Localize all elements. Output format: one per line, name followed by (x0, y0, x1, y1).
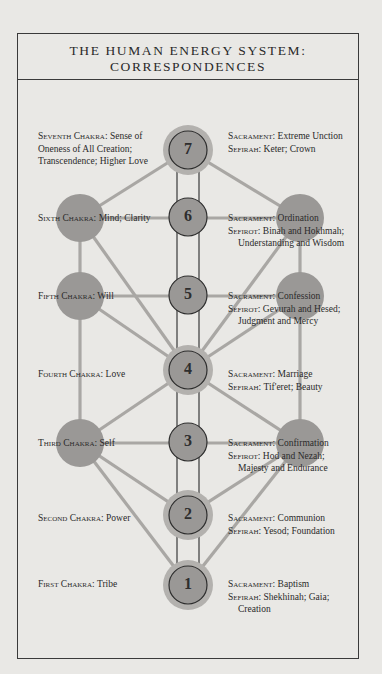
chakra-7-label: Seventh Chakra: Sense of Oneness of All … (38, 130, 148, 168)
chakra-name: Second Chakra: (38, 513, 104, 523)
sacrament-2-label: Sacrament: Communion Sefirah: Yesod; Fou… (228, 512, 335, 537)
chakra-6-label: Sixth Chakra: Mind; Clarity (38, 212, 151, 225)
chakra-4-label: Fourth Chakra: Love (38, 368, 125, 381)
chakra-3-label: Third Chakra: Self (38, 437, 115, 450)
chakra-name: Third Chakra: (38, 438, 97, 448)
sacrament-3-label: Sacrament: Confirmation Sefirot: Hod and… (228, 437, 329, 475)
tree-of-life-diagram (0, 0, 382, 674)
chakra-2-label: Second Chakra: Power (38, 512, 130, 525)
chakra-number-4: 4 (173, 360, 203, 378)
sacrament-6-label: Sacrament: Ordination Sefirot: Binah and… (228, 212, 344, 250)
sacrament-4-label: Sacrament: Marriage Sefirah: Tif'eret; B… (228, 368, 323, 393)
chakra-number-5: 5 (173, 285, 203, 303)
chakra-name: First Chakra: (38, 579, 95, 589)
sacrament-5-label: Sacrament: Confession Sefirot: Gevurah a… (228, 290, 340, 328)
chakra-name: Seventh Chakra: (38, 131, 108, 141)
chakra-number-7: 7 (173, 140, 203, 158)
chakra-number-3: 3 (173, 432, 203, 450)
chakra-name: Fourth Chakra: (38, 369, 103, 379)
chakra-1-label: First Chakra: Tribe (38, 578, 117, 591)
chakra-number-6: 6 (173, 207, 203, 225)
sacrament-7-label: Sacrament: Extreme Unction Sefirah: Kete… (228, 130, 343, 155)
chakra-name: Sixth Chakra: (38, 213, 96, 223)
chakra-5-label: Fifth Chakra: Will (38, 290, 114, 303)
chakra-number-2: 2 (173, 505, 203, 523)
sacrament-1-label: Sacrament: Baptism Sefirah: Shekhinah; G… (228, 578, 329, 616)
chakra-number-1: 1 (173, 575, 203, 593)
chakra-name: Fifth Chakra: (38, 291, 95, 301)
